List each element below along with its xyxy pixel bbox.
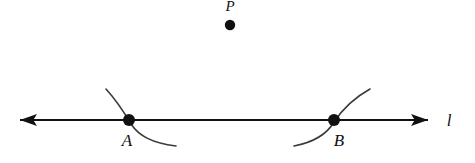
point-label-b: B [334, 131, 345, 150]
point-dot-p [225, 20, 235, 30]
line-label-l: l [447, 111, 452, 130]
construction-arc-through-a [106, 89, 176, 146]
point-labels-group: P A B l [121, 0, 452, 150]
diagram-canvas: P A B l [0, 0, 475, 163]
point-dots-group [123, 20, 340, 126]
point-dot-b [328, 114, 340, 126]
point-label-p: P [224, 0, 234, 14]
point-dot-a [123, 114, 135, 126]
point-label-a: A [121, 131, 133, 150]
geometry-figure: P A B l [0, 0, 475, 163]
line-l-group [20, 114, 428, 126]
